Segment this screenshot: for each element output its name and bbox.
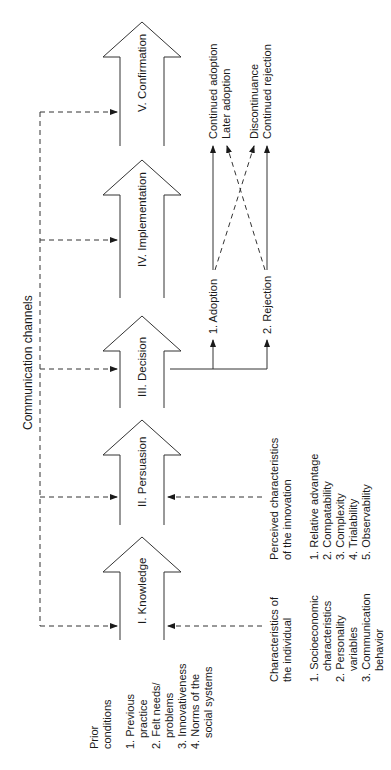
prior-condition-item: 1. Previous: [124, 693, 136, 749]
decision-branch-connector: [170, 340, 267, 369]
individual-characteristic-item-cont: characteristics: [321, 600, 333, 671]
continued-rejection-label: Continued rejection: [261, 44, 273, 139]
individual-characteristic-item-cont: variables: [347, 626, 359, 671]
rejection-label: 2. Rejection: [261, 276, 273, 334]
prior-condition-item: 4. Norms of the: [189, 674, 201, 749]
individual-characteristic-item: 1. Socioeconomic: [308, 595, 320, 682]
innovation-characteristics-block: Perceived characteristics of the innovat…: [268, 437, 372, 560]
prior-condition-item-cont: problems: [163, 692, 175, 738]
individual-characteristics-title-2: the individual: [281, 618, 293, 682]
prior-condition-item-cont: practice: [137, 699, 149, 738]
stage-arrow-confirmation: V. Confirmation: [103, 22, 181, 146]
stage-label-confirmation: V. Confirmation: [136, 34, 148, 112]
confirmation-paths: [213, 146, 267, 270]
stage-arrow-implementation: IV. Implementation: [103, 160, 181, 298]
innovation-characteristic-item: 1. Relative advantage: [308, 454, 320, 560]
communication-channels-label: Communication channels: [21, 295, 35, 430]
stage-arrow-knowledge: I. Knowledge: [103, 537, 181, 640]
innovation-characteristic-item: 3. Complexity: [334, 493, 346, 560]
individual-characteristics-title: Characteristics of: [268, 596, 280, 682]
innovation-decision-diagram: V. Confirmation IV. Implementation III. …: [0, 0, 391, 770]
individual-characteristic-item-cont: behavior: [373, 628, 385, 671]
stage-arrow-persuasion: II. Persuasion: [103, 420, 181, 525]
stage-arrow-decision: III. Decision: [103, 316, 181, 408]
stage-label-persuasion: II. Persuasion: [136, 437, 148, 507]
discontinuance-label: Discontinuance: [248, 64, 260, 139]
later-adoption-label: Later adoption: [220, 69, 232, 139]
individual-characteristics-block: Characteristics of the individual 1. Soc…: [268, 593, 385, 682]
stage-label-implementation: IV. Implementation: [136, 172, 148, 267]
stage-label-decision: III. Decision: [136, 337, 148, 397]
innovation-characteristics-title: Perceived characteristics: [268, 437, 280, 560]
continued-adoption-label: Continued adoption: [207, 44, 219, 139]
prior-conditions-block: Prior conditions 1. Previous practice 2.…: [88, 663, 214, 749]
innovation-characteristic-item: 5. Observability: [360, 484, 372, 560]
prior-condition-item: 3. Innovativeness: [176, 663, 188, 749]
stage-label-knowledge: I. Knowledge: [136, 558, 148, 625]
individual-characteristic-item: 2. Personality: [334, 615, 346, 682]
individual-characteristic-item: 3. Communication: [360, 593, 372, 682]
communication-channels-connector: [40, 112, 117, 626]
prior-condition-item: 2. Felt needs/: [150, 681, 162, 749]
prior-condition-item-cont: social systems: [202, 666, 214, 738]
adoption-label: 1. Adoption: [207, 279, 219, 334]
innovation-characteristics-title-2: of the innovation: [281, 479, 293, 560]
prior-conditions-title-2: conditions: [101, 699, 113, 749]
prior-conditions-title: Prior: [88, 725, 100, 749]
innovation-characteristic-item: 2. Compatability: [321, 481, 333, 560]
innovation-characteristic-item: 4. Trialability: [347, 498, 359, 560]
